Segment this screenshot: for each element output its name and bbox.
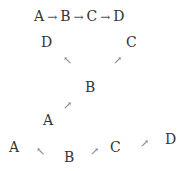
arrow-up-left-icon: ↖ xyxy=(36,146,45,157)
node-a: A xyxy=(34,8,44,24)
node-c: C xyxy=(87,8,98,24)
arrow-up-right-icon: ↗ xyxy=(140,138,149,149)
node-d: D xyxy=(41,35,52,49)
node-d: D xyxy=(165,132,176,146)
arrow-up-right-icon: ↗ xyxy=(90,146,99,157)
arrow-up-right-icon: ↗ xyxy=(113,55,122,66)
node-c: C xyxy=(110,140,121,154)
arrow-right-icon: → xyxy=(47,10,57,24)
arrow-right-icon: → xyxy=(100,10,110,24)
arrow-up-left-icon: ↖ xyxy=(63,55,72,66)
node-b: B xyxy=(85,80,95,94)
arrow-right-icon: → xyxy=(73,10,83,24)
node-c: C xyxy=(126,35,137,49)
linear-sequence: A→B→C→D xyxy=(34,8,125,24)
node-a: A xyxy=(9,140,19,154)
node-b: B xyxy=(60,8,70,24)
arrow-up-right-icon: ↗ xyxy=(63,100,72,111)
node-d: D xyxy=(113,8,124,24)
node-b: B xyxy=(64,150,74,164)
node-a: A xyxy=(43,113,53,127)
